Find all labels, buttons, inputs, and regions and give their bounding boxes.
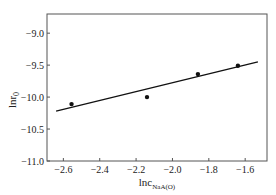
data-point [69, 102, 73, 106]
y-tick-label: −9.0 [26, 28, 44, 39]
chart: −2.6−2.4−2.2−2.0−1.8−1.6 −9.0−9.5−10.0−1… [0, 0, 276, 195]
y-tick-label: −10.5 [21, 124, 44, 135]
x-axis-label: lncNaA(O) [139, 176, 176, 191]
series-layer [56, 62, 258, 111]
x-tick-label: −2.6 [54, 164, 72, 175]
y-tick-label: −9.5 [26, 60, 44, 71]
fit-line [56, 62, 258, 111]
y-tick-label: −10.0 [21, 92, 44, 103]
x-tick-label: −2.4 [91, 164, 109, 175]
data-point [145, 95, 149, 99]
y-tick-label: −11.0 [21, 156, 44, 167]
plot-frame [47, 14, 267, 161]
x-tick-label: −2.2 [127, 164, 145, 175]
x-tick-label: −1.8 [200, 164, 218, 175]
y-axis-ticks: −9.0−9.5−10.0−10.5−11.0 [21, 28, 50, 167]
x-tick-label: −2.0 [163, 164, 181, 175]
x-tick-label: −1.6 [236, 164, 254, 175]
y-axis-label: lnr0 [6, 92, 21, 108]
